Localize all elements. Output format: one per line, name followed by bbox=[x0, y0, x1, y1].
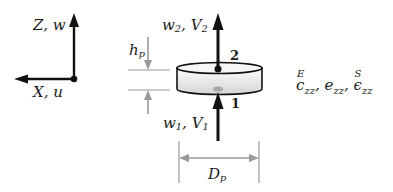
permittivity-superscript: S bbox=[355, 69, 362, 79]
bottom-port-marker-icon bbox=[213, 86, 223, 91]
piezo-subscript: zz bbox=[333, 85, 344, 96]
x-axis-arrowhead-icon bbox=[14, 75, 28, 84]
diameter-left-arrowhead-icon bbox=[179, 154, 189, 162]
diameter-label: Dp bbox=[208, 167, 226, 183]
z-axis-arrowhead-icon bbox=[69, 13, 79, 27]
piezo-constant: ezz bbox=[325, 78, 344, 96]
top-arrowhead-icon bbox=[213, 13, 224, 30]
permittivity-subscript: zz bbox=[362, 85, 373, 96]
bottom-voltage-subscript: 1 bbox=[202, 121, 208, 132]
origin-dot-icon bbox=[71, 76, 78, 83]
height-arrow-up-icon bbox=[144, 90, 152, 100]
separator: , bbox=[181, 16, 186, 34]
top-port-number: 2 bbox=[230, 49, 239, 62]
height-arrow-down-icon bbox=[144, 60, 152, 70]
top-voltage-symbol: V bbox=[191, 16, 202, 34]
top-voltage-subscript: 2 bbox=[201, 23, 207, 34]
height-label: hp bbox=[129, 43, 145, 59]
height-subscript: p bbox=[139, 48, 145, 59]
stiffness-constant: cEzz bbox=[296, 78, 315, 96]
bottom-load-label: w1, V1 bbox=[163, 116, 209, 132]
separator: , bbox=[182, 114, 187, 132]
bottom-load-arrow bbox=[213, 92, 224, 141]
material-properties-label: cEzz, ezz, ϵSzz bbox=[296, 78, 372, 96]
diameter-right-arrowhead-icon bbox=[249, 154, 259, 162]
bottom-port-number: 1 bbox=[231, 97, 240, 110]
diameter-symbol: D bbox=[208, 165, 220, 183]
bottom-voltage-symbol: V bbox=[192, 114, 203, 132]
separator: , bbox=[344, 76, 349, 94]
x-axis-label: X, u bbox=[33, 85, 63, 100]
height-symbol: h bbox=[129, 41, 139, 59]
stiffness-subscript: zz bbox=[304, 85, 315, 96]
top-load-label: w2, V2 bbox=[162, 18, 208, 34]
stiffness-superscript: E bbox=[297, 69, 304, 79]
z-axis-label: Z, w bbox=[33, 18, 66, 33]
separator: , bbox=[315, 76, 320, 94]
diameter-subscript: p bbox=[220, 172, 226, 183]
bottom-displacement-symbol: w bbox=[163, 114, 176, 132]
permittivity-constant: ϵSzz bbox=[354, 78, 373, 96]
top-displacement-symbol: w bbox=[162, 16, 175, 34]
top-port-dot-icon bbox=[215, 66, 222, 73]
